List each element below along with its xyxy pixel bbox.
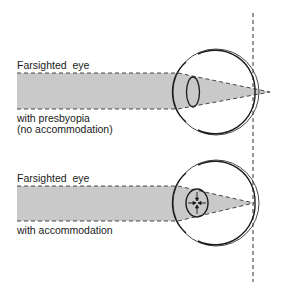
top-light-beam: [17, 73, 270, 109]
bottom-light-beam: [17, 186, 254, 221]
diagram-graphics: [0, 0, 286, 294]
bottom-panel-title: Farsighted eye: [17, 173, 89, 184]
presbyopia-diagram: Farsighted eye with presbyopia (no accom…: [0, 0, 286, 294]
bottom-panel-caption-line1: with accommodation: [17, 225, 113, 236]
top-panel-title: Farsighted eye: [17, 60, 89, 71]
top-panel-caption-line2: (no accommodation): [17, 124, 113, 135]
